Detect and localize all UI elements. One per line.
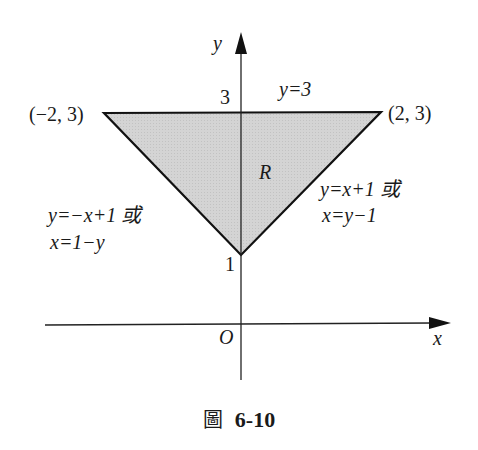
top-line-equation: y=3	[277, 78, 311, 101]
vertex-right-label: (2, 3)	[388, 102, 431, 125]
left-line-equation-1: y=−x+1 或	[46, 204, 144, 227]
y-tick-1: 1	[225, 253, 235, 275]
x-axis	[45, 323, 432, 325]
y-axis-arrow-icon	[235, 32, 247, 54]
left-line-equation-2: x=1−y	[49, 231, 105, 254]
right-line-equation-2: x=y−1	[321, 204, 377, 227]
origin-label: O	[219, 326, 233, 348]
region-diagram: y x O 3 1 (−2, 3) (2, 3) y=3 R y=x+1 或 x…	[0, 0, 478, 450]
figure-caption-number: 6-10	[235, 407, 275, 432]
x-axis-label: x	[432, 327, 442, 349]
y-tick-3: 3	[220, 86, 230, 108]
vertex-left-label: (−2, 3)	[29, 103, 84, 126]
region-label: R	[258, 161, 271, 183]
figure-caption: 圖6-10	[0, 404, 478, 433]
right-line-equation-1: y=x+1 或	[318, 178, 403, 201]
y-axis-label: y	[211, 32, 222, 55]
figure-caption-prefix: 圖	[203, 408, 223, 432]
